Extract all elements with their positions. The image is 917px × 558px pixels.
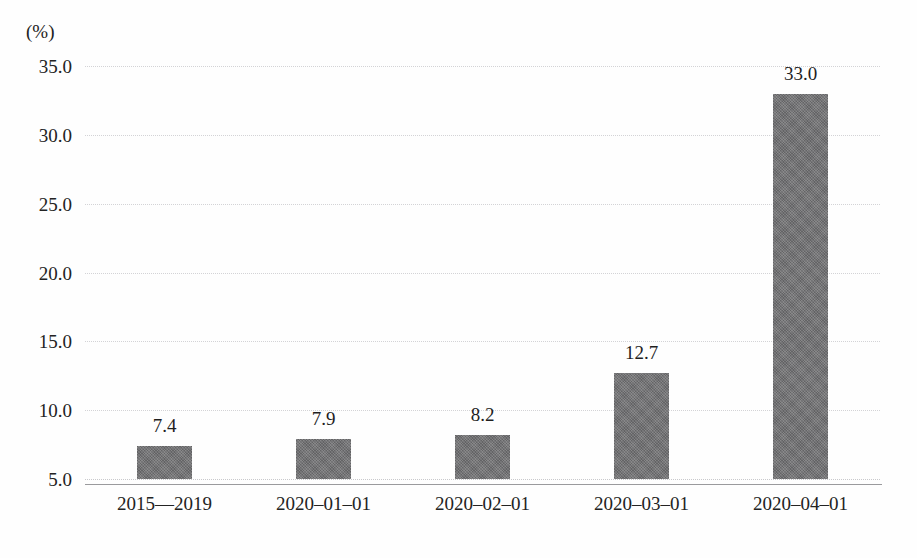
x-axis-category-label: 2020–01–01 [276,494,371,513]
bar-value-label: 7.4 [153,416,177,435]
bar [137,446,192,479]
y-axis-tick-label: 20.0 [39,263,72,282]
x-axis-line [85,484,882,485]
y-axis-tick-label: 5.0 [48,470,72,489]
x-axis-category-label: 2020–03–01 [594,494,689,513]
y-axis-tick-label: 30.0 [39,125,72,144]
gridline [85,204,880,205]
y-axis-tick-labels: 35.030.025.020.015.010.05.0 [0,66,72,479]
bar-value-label: 8.2 [471,405,495,424]
gridline [85,341,880,342]
bar [773,94,828,479]
bar-value-label: 33.0 [784,64,817,83]
bar-value-label: 7.9 [312,409,336,428]
gridline [85,66,880,67]
y-axis-tick-label: 10.0 [39,401,72,420]
y-axis-tick-label: 35.0 [39,57,72,76]
x-axis-category-label: 2020–02–01 [435,494,530,513]
x-axis-category-label: 2015—2019 [117,494,212,513]
y-axis-tick-label: 25.0 [39,194,72,213]
bar [455,435,510,479]
bar [296,439,351,479]
y-axis-unit-label: (%) [26,22,54,41]
gridline [85,273,880,274]
x-axis-category-label: 2020–04–01 [753,494,848,513]
gridline [85,135,880,136]
gridline [85,479,880,480]
bar [614,373,669,479]
bar-value-label: 12.7 [625,343,658,362]
bar-chart: (%) 35.030.025.020.015.010.05.0 7.42015—… [0,0,917,558]
y-axis-tick-label: 15.0 [39,332,72,351]
